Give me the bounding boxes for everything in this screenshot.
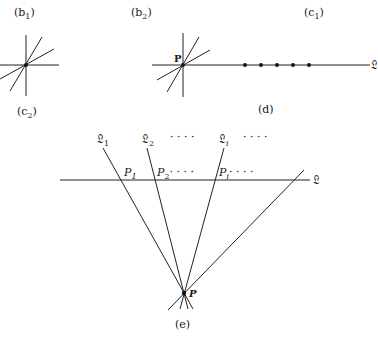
line-l2-label: 𝔏2 (142, 133, 154, 148)
panel-b1-label: (b1) (14, 6, 35, 21)
line-ellipsis-1: · · · · (170, 131, 194, 144)
panel-b2-label: (b2) (131, 6, 152, 21)
panel-c2-label: (c2) (17, 105, 37, 120)
line-li-label: 𝔏i (219, 133, 229, 148)
panel-e-label: (e) (175, 318, 190, 331)
line-l-label: 𝔏 (313, 174, 320, 187)
line-ellipsis-2: · · · · (243, 131, 267, 144)
line-l-label: 𝔏 (371, 59, 378, 72)
panel-e: 𝔏1 𝔏2 · · · · 𝔏i · · · · P1 P2· · · · Pi… (60, 131, 320, 331)
panel-d: 𝔏 (d) (152, 59, 378, 116)
point-p2-label: P2· · · · (156, 166, 194, 181)
point-p-label: P (174, 53, 182, 64)
panel-d-label: (d) (258, 103, 274, 116)
point-p1-label: P1 (123, 166, 137, 181)
dot (307, 63, 311, 67)
point-pi-label: Pi· · · · (218, 166, 253, 181)
panel-b2: (b2) P (131, 6, 210, 97)
panel-b1: (b1) (0, 6, 59, 96)
dot (275, 63, 279, 67)
intersection-point (24, 63, 28, 67)
dot (291, 63, 295, 67)
diagram-canvas: (b1) (b2) P (c1) 𝔏 (d) (c2) 𝔏1 𝔏2 · · · … (0, 0, 378, 340)
point-p-label: P (188, 288, 197, 299)
panel-c1-label: (c1) (304, 6, 324, 21)
line-l1-label: 𝔏1 (97, 133, 109, 148)
dot (259, 63, 263, 67)
point-p (182, 291, 186, 295)
dot (243, 63, 247, 67)
